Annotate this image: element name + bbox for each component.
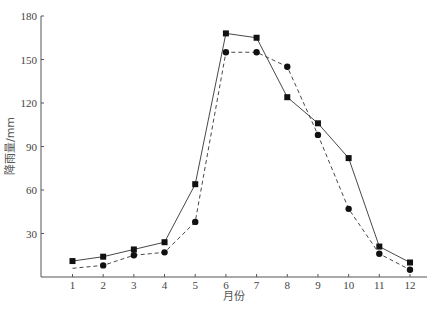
circle-marker xyxy=(345,206,351,212)
x-axis-title: 月份 xyxy=(223,290,245,303)
y-tick-label: 120 xyxy=(21,97,38,109)
circle-marker xyxy=(284,64,290,70)
x-tick-label: 2 xyxy=(100,279,106,291)
x-tick-label: 11 xyxy=(374,279,385,291)
circle-marker xyxy=(223,49,229,55)
x-tick-label: 12 xyxy=(405,279,416,291)
square-marker xyxy=(284,94,290,100)
x-tick-label: 1 xyxy=(70,279,76,291)
square-marker xyxy=(407,260,413,266)
x-tick-label: 8 xyxy=(285,279,291,291)
square-marker xyxy=(70,258,76,264)
x-tick-label: 5 xyxy=(192,279,198,291)
square-marker xyxy=(346,155,352,161)
chart-axes xyxy=(41,16,427,277)
series-1 xyxy=(70,30,414,265)
x-tick-label: 9 xyxy=(315,279,321,291)
square-marker xyxy=(223,30,229,36)
circle-marker xyxy=(100,262,106,268)
y-axis-title: 降雨量/mm xyxy=(3,117,17,175)
y-axis-ticks: 306090120150180 xyxy=(21,10,45,240)
x-tick-label: 10 xyxy=(343,279,355,291)
x-tick-label: 3 xyxy=(131,279,137,291)
circle-marker xyxy=(253,49,259,55)
square-marker xyxy=(376,244,382,250)
rainfall-line-chart: 306090120150180 123456789101112 月份 降雨量/m… xyxy=(0,0,437,311)
square-marker xyxy=(100,254,106,260)
circle-marker xyxy=(161,249,167,255)
circle-marker xyxy=(376,251,382,257)
y-tick-label: 30 xyxy=(26,228,38,240)
square-marker xyxy=(192,181,198,187)
series-line xyxy=(73,33,411,262)
y-tick-label: 60 xyxy=(26,184,38,196)
series-line xyxy=(73,52,411,270)
x-tick-label: 7 xyxy=(254,279,260,291)
series-2 xyxy=(73,49,414,273)
y-tick-label: 180 xyxy=(21,10,38,22)
circle-marker xyxy=(407,267,413,273)
y-tick-label: 150 xyxy=(21,54,38,66)
circle-marker xyxy=(192,219,198,225)
x-tick-label: 4 xyxy=(162,279,168,291)
data-series xyxy=(70,30,414,273)
circle-marker xyxy=(131,252,137,258)
square-marker xyxy=(131,246,137,252)
square-marker xyxy=(254,35,260,41)
square-marker xyxy=(315,120,321,126)
y-tick-label: 90 xyxy=(26,141,38,153)
circle-marker xyxy=(315,132,321,138)
square-marker xyxy=(162,239,168,245)
